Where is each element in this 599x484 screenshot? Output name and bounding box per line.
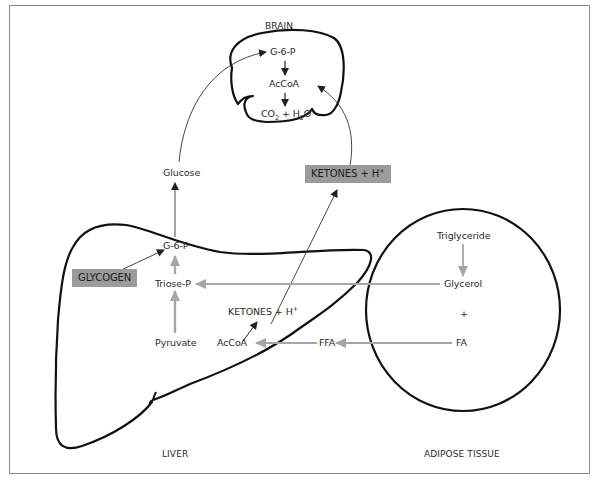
o-text: O — [304, 108, 311, 119]
liver-title: LIVER — [162, 448, 188, 460]
brain-accoa-label: AcCoA — [269, 78, 299, 90]
blood-ketones-box: KETONES + H+ — [305, 165, 391, 183]
liver-ketones-label: KETONES + H+ — [228, 306, 298, 318]
brain-co2-h2o-label: CO2 + H2O — [261, 108, 311, 120]
adipose-tissue-title: ADIPOSE TISSUE — [424, 448, 500, 460]
arrow-liver-ketones-to-blood-ketones — [271, 190, 337, 324]
metabolic-pathway-diagram — [0, 0, 599, 484]
glycerol-label: Glycerol — [444, 278, 482, 290]
blood-ketones-text: KETONES + H — [311, 168, 379, 179]
glycogen-box: GLYCOGEN — [72, 269, 137, 287]
liver-g6p-label: G-6-P — [163, 240, 189, 252]
triose-p-label: Triose-P — [155, 278, 191, 290]
arrow-glucose-to-brain-g6p — [179, 52, 266, 162]
pyruvate-label: Pyruvate — [155, 337, 197, 349]
fa-label: FA — [456, 337, 467, 349]
ffa-label: FFA — [319, 337, 335, 349]
arrow-blood-ketones-to-brain-accoa — [318, 86, 352, 166]
liver-accoa-label: AcCoA — [217, 337, 247, 349]
liver-ketones-text: KETONES + H — [228, 306, 293, 317]
plus-sign: + — [460, 308, 468, 320]
co-text: CO — [261, 108, 275, 119]
brain-g6p-label: G-6-P — [270, 46, 296, 58]
h-plus-superscript: + — [293, 305, 298, 313]
triglyceride-label: Triglyceride — [437, 230, 491, 242]
h-plus-superscript: + — [379, 167, 384, 175]
plus-h-text: + H — [279, 108, 300, 119]
glucose-label: Glucose — [163, 167, 200, 179]
brain-title: BRAIN — [265, 20, 293, 32]
